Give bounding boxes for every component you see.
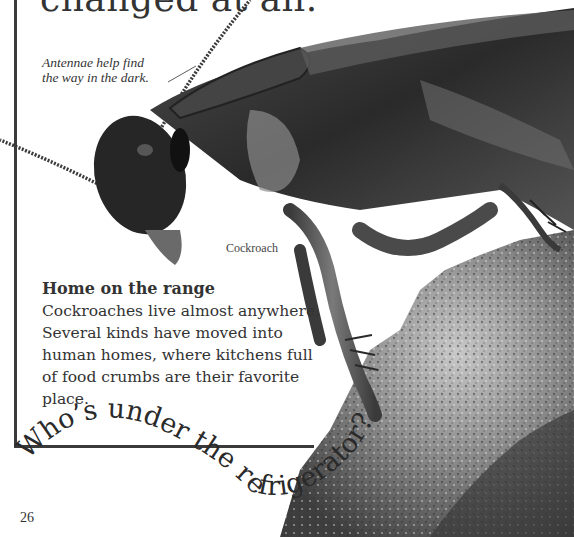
page-number: 26 [20, 510, 34, 526]
curved-heading: Who’s under the refrigerator? [0, 0, 574, 537]
svg-text:Who’s under the refrigerator?: Who’s under the refrigerator? [10, 392, 379, 501]
curved-heading-text: Who’s under the refrigerator? [10, 392, 379, 501]
